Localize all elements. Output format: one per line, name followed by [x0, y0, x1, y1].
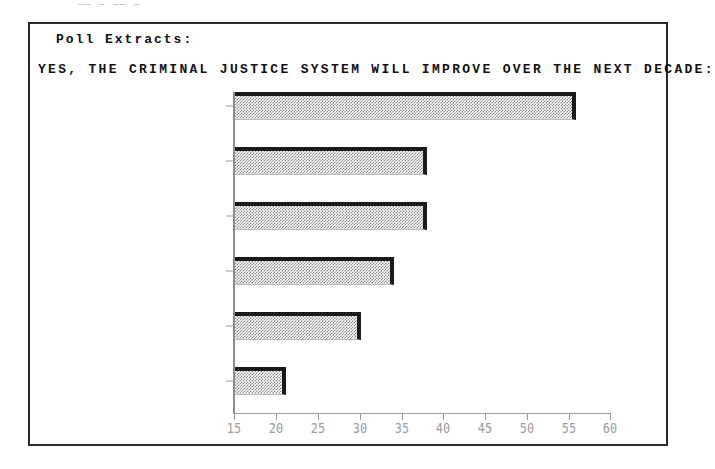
y-axis-tick — [226, 326, 233, 327]
x-axis-tick-label: 35 — [395, 420, 409, 436]
y-axis-tick — [226, 381, 233, 382]
x-axis-tick — [443, 413, 444, 420]
x-axis-tick-label: 45 — [478, 420, 492, 436]
x-axis-tick-label: 15 — [227, 420, 241, 436]
x-axis-tick — [485, 413, 486, 420]
x-axis-tick-label: 40 — [436, 420, 450, 436]
bar-probation-officers — [235, 147, 427, 175]
x-axis-tick-label: 30 — [353, 420, 367, 436]
bar-superior-judges — [235, 312, 361, 340]
x-axis-tick — [569, 413, 570, 420]
x-axis-tick-label: 50 — [520, 420, 534, 436]
x-axis-tick — [318, 413, 319, 420]
x-axis-tick — [234, 413, 235, 420]
x-axis-line — [233, 413, 610, 414]
figure-caption: Poll Extracts: — [56, 32, 193, 47]
y-axis-tick — [226, 161, 233, 162]
x-axis-tick-label: 25 — [311, 420, 325, 436]
x-axis-tick — [402, 413, 403, 420]
x-axis-tick — [527, 413, 528, 420]
x-axis-tick — [360, 413, 361, 420]
chart-title: YES, THE CRIMINAL JUSTICE SYSTEM WILL IM… — [38, 62, 715, 77]
bar-public-defenders — [235, 367, 286, 395]
x-axis-tick-label: 60 — [603, 420, 617, 436]
bar-chart-plot-area: MUNICIPAL JUDGES 54% PROBATION OFFICERS … — [30, 86, 666, 444]
scan-artifact-top-text: —— — —— — — [78, 0, 268, 9]
y-axis-line — [233, 92, 235, 414]
x-axis-tick-label: 55 — [562, 420, 576, 436]
x-axis-tick-label: 20 — [269, 420, 283, 436]
x-axis-tick — [276, 413, 277, 420]
y-axis-tick — [226, 271, 233, 272]
x-axis-tick — [610, 413, 611, 420]
y-axis-tick — [226, 216, 233, 217]
bar-police — [235, 257, 394, 285]
y-axis-tick — [226, 106, 233, 107]
figure-frame: Poll Extracts: YES, THE CRIMINAL JUSTICE… — [28, 22, 668, 446]
bar-prosecutors — [235, 202, 427, 230]
bar-municipal-judges — [235, 92, 576, 120]
